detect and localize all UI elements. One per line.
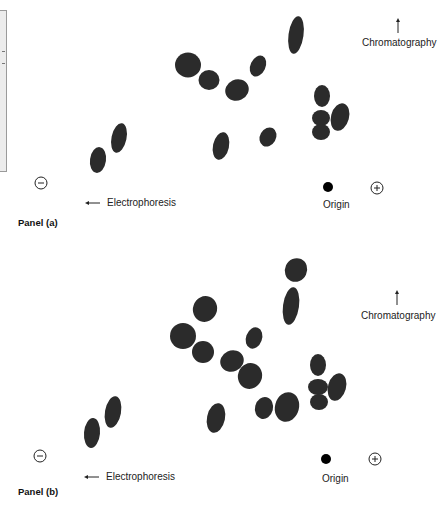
panel-b-spots — [83, 254, 350, 448]
spot — [280, 286, 301, 326]
origin-dot-icon — [321, 454, 331, 464]
spot — [189, 293, 220, 326]
spot — [310, 394, 328, 410]
spot — [272, 389, 303, 424]
origin-label: Origin — [322, 474, 349, 484]
spot — [308, 379, 328, 395]
chromatography-label: Chromatography — [362, 38, 436, 48]
spot — [281, 254, 311, 285]
origin-label: Origin — [323, 200, 350, 210]
chromatography-label: Chromatography — [361, 311, 435, 321]
spot — [310, 354, 326, 376]
electrophoresis-label: Electrophoresis — [107, 198, 176, 208]
spot — [252, 395, 275, 421]
spot — [243, 325, 266, 351]
spot — [192, 341, 214, 363]
electrophoresis-arrow-icon — [84, 475, 99, 479]
spot — [204, 401, 228, 434]
spot — [83, 417, 102, 448]
panel-a: Chromatography Electrophoresis Origin Pa… — [0, 0, 443, 240]
panel-title: Panel (a) — [18, 218, 58, 228]
panel-title: Panel (b) — [18, 487, 58, 497]
spot — [170, 323, 196, 349]
electrophoresis-label: Electrophoresis — [106, 472, 175, 482]
chromatography-arrow-icon — [395, 290, 399, 305]
spot — [102, 395, 123, 429]
spot — [325, 371, 350, 403]
